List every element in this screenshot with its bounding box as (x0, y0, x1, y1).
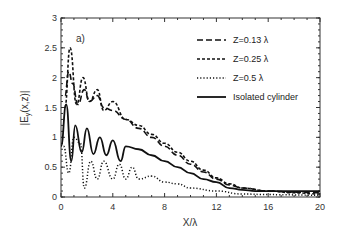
y-tick-label: 0.5 (44, 162, 57, 172)
legend-entry: Z=0.25 λ (233, 54, 269, 64)
legend: Z=0.13 λZ=0.25 λZ=0.5 λIsolated cylinder (197, 35, 298, 102)
x-tick-label: 20 (315, 202, 325, 212)
x-axis-label: X/λ (183, 217, 197, 228)
chart: 04812162000.511.522.53 Z=0.13 λZ=0.25 λZ… (0, 0, 341, 239)
y-tick-label: 0 (52, 192, 57, 202)
y-tick-label: 2 (52, 73, 57, 83)
x-tick-label: 4 (110, 202, 115, 212)
series-line (61, 105, 320, 192)
x-tick-label: 8 (162, 202, 167, 212)
y-axis-label: |Ey(x,z)| (19, 91, 32, 126)
y-tick-label: 2.5 (44, 43, 57, 53)
x-tick-label: 12 (211, 202, 221, 212)
panel-label: a) (76, 33, 85, 44)
legend-entry: Isolated cylinder (233, 92, 298, 102)
legend-entry: Z=0.13 λ (233, 35, 269, 45)
legend-entry: Z=0.5 λ (233, 73, 264, 83)
series-line (65, 48, 320, 194)
series-line (65, 72, 320, 193)
y-tick-label: 1 (52, 132, 57, 142)
series-line (64, 137, 320, 195)
data-series (61, 48, 320, 195)
x-tick-label: 16 (263, 202, 273, 212)
y-tick-label: 3 (52, 13, 57, 23)
plot-frame (61, 18, 320, 197)
x-tick-label: 0 (58, 202, 63, 212)
y-tick-label: 1.5 (44, 103, 57, 113)
